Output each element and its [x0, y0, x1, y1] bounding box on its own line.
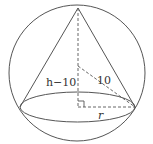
label-height-segment: h−10: [46, 77, 76, 88]
label-sphere-radius: 10: [97, 75, 111, 86]
label-base-radius: r: [98, 110, 103, 121]
right-angle-marker: [78, 101, 84, 107]
diagram-canvas: h−10 10 r: [0, 0, 153, 144]
cone-base-ellipse: [20, 92, 135, 122]
geometry-figure: [0, 0, 153, 144]
sphere-outline: [9, 5, 145, 141]
